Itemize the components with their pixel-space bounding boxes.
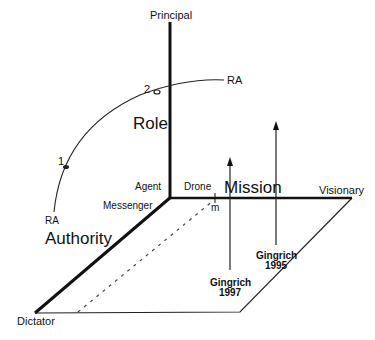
gingrich-1997-label: Gingrich 1997	[210, 278, 250, 298]
plane-outline	[35, 198, 352, 313]
gingrich-1997-year: 1997	[210, 288, 250, 298]
authority-axis-name: Authority	[45, 230, 112, 247]
arc-point-2-label: 2	[144, 84, 150, 95]
diagram-canvas	[0, 0, 375, 340]
mission-axis-name: Mission	[224, 179, 282, 196]
arc-start-label: RA	[45, 216, 59, 226]
dictator-label: Dictator	[17, 316, 55, 327]
role-axis-name: Role	[133, 115, 168, 132]
gingrich-1995-label: Gingrich 1995	[256, 251, 296, 271]
arc-point-2	[154, 90, 160, 94]
arc-end-label: RA	[227, 75, 242, 86]
gingrich-1995-year: 1995	[256, 261, 296, 271]
visionary-label: Visionary	[319, 185, 364, 196]
arrowhead-1995-icon	[273, 121, 279, 130]
principal-label: Principal	[150, 10, 192, 21]
ra-arc	[54, 80, 224, 212]
m-marker-label: m	[211, 203, 219, 213]
arc-point-1-label: 1	[58, 156, 64, 167]
agent-label: Agent	[135, 182, 161, 192]
drone-label: Drone	[184, 182, 211, 192]
arrowhead-1997-icon	[227, 157, 233, 166]
messenger-label: Messenger	[103, 201, 152, 211]
